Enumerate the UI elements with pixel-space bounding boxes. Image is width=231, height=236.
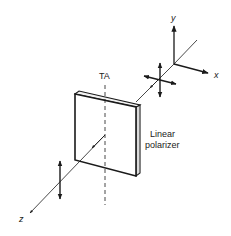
polarizer-label-line2: polarizer bbox=[145, 140, 180, 150]
polarizer-diagram: y x TA z Linear polarizer bbox=[0, 0, 231, 236]
x-axis-arrow bbox=[174, 64, 208, 73]
z-axis-back-line bbox=[174, 40, 197, 64]
transmission-axis-label: TA bbox=[99, 71, 110, 81]
x-axis-label: x bbox=[213, 70, 219, 80]
polarizer-label-line1: Linear bbox=[150, 129, 175, 139]
z-axis-label: z bbox=[18, 214, 24, 224]
unpolarized-light-icon bbox=[144, 63, 176, 97]
coordinate-axes: y x bbox=[170, 13, 219, 80]
linear-polarizer-plate bbox=[75, 91, 140, 176]
y-axis-label: y bbox=[170, 13, 176, 23]
